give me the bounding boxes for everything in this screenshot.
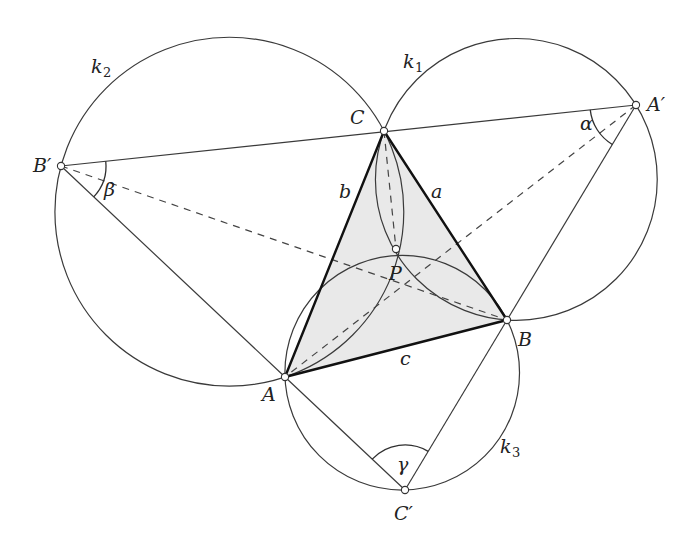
label-P: P bbox=[388, 262, 403, 284]
label-C: C bbox=[350, 106, 365, 128]
point-C-prime bbox=[401, 486, 408, 493]
svg-text:1: 1 bbox=[415, 60, 423, 75]
label-A: A bbox=[260, 383, 276, 405]
dashed-Aprime-A bbox=[285, 105, 636, 377]
label-side-c: c bbox=[400, 347, 411, 369]
label-C-prime: C′ bbox=[394, 502, 414, 524]
label-circle-k3: k 3 bbox=[500, 435, 520, 460]
label-B-prime: B′ bbox=[32, 154, 52, 176]
line-Cprime-B bbox=[405, 320, 507, 490]
line-Bprime-Aprime bbox=[61, 105, 636, 166]
svg-text:2: 2 bbox=[103, 65, 111, 80]
label-circle-k2: k 2 bbox=[91, 55, 111, 80]
point-B bbox=[503, 316, 510, 323]
point-C bbox=[380, 127, 387, 134]
label-circle-k1: k 1 bbox=[403, 50, 423, 75]
label-A-prime: A′ bbox=[645, 93, 666, 115]
svg-text:k: k bbox=[91, 55, 103, 77]
line-B-Aprime bbox=[507, 105, 636, 320]
triangle-fill bbox=[285, 131, 507, 377]
label-B: B bbox=[517, 328, 532, 350]
point-P bbox=[392, 245, 399, 252]
svg-text:3: 3 bbox=[512, 445, 520, 460]
line-A-Cprime bbox=[285, 377, 405, 490]
point-A-prime bbox=[632, 101, 639, 108]
line-Bprime-A bbox=[61, 166, 285, 377]
label-angle-beta: β bbox=[103, 178, 115, 200]
label-angle-gamma: γ bbox=[397, 453, 409, 475]
label-angle-alpha: α bbox=[580, 112, 593, 134]
fermat-point-diagram: C B A P A′ B′ C′ a b c α β γ k 1 k 2 k 3 bbox=[0, 0, 700, 536]
angle-arc-alpha bbox=[590, 110, 612, 145]
svg-text:k: k bbox=[403, 50, 415, 72]
point-B-prime bbox=[57, 162, 64, 169]
svg-text:k: k bbox=[500, 435, 512, 457]
point-A bbox=[281, 373, 288, 380]
label-side-a: a bbox=[431, 180, 442, 202]
label-side-b: b bbox=[339, 180, 351, 202]
